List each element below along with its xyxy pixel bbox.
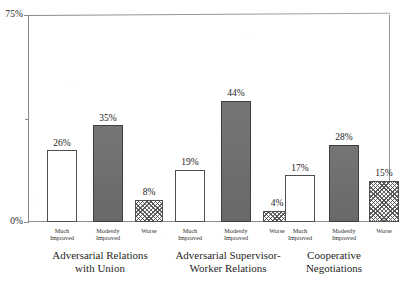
category-label-line: Worse	[376, 227, 392, 234]
bar-slot: 44%	[221, 15, 251, 222]
category-label-much-improved: MuchImproved	[50, 227, 74, 242]
category-label-much-improved: MuchImproved	[288, 227, 312, 242]
group-title-line: Worker Relations	[175, 262, 280, 275]
bar-slot: 28%	[329, 15, 359, 222]
bar-value-label: 26%	[53, 139, 70, 149]
plot-area: 0%75% 26%35%8%19%44%4%17%28%15%	[28, 15, 390, 222]
category-label-line: Improved	[178, 234, 202, 241]
bar-value-label: 15%	[375, 169, 392, 179]
category-labels-layer: MuchImprovedModestlyImprovedWorseAdversa…	[28, 222, 390, 285]
category-label-line: Improved	[224, 234, 248, 241]
bar-value-label: 28%	[335, 133, 352, 143]
bar-value-label: 19%	[181, 158, 198, 168]
bar-open	[47, 150, 77, 222]
group-label-block: MuchImprovedModestlyImprovedWorseCoopera…	[271, 222, 397, 285]
bar-open	[285, 175, 315, 222]
y-tick-label: 0%	[10, 217, 23, 227]
group-title: Adversarial Supervisor-Worker Relations	[175, 249, 280, 275]
category-label-line: Improved	[50, 234, 74, 241]
category-label-line: Much	[50, 227, 74, 234]
category-label-line: Modestly	[332, 227, 356, 234]
category-label-line: Modestly	[224, 227, 248, 234]
group-title: Adversarial Relationswith Union	[52, 249, 148, 275]
bar-solid	[329, 145, 359, 222]
bar-groups: 26%35%8%19%44%4%17%28%15%	[28, 15, 390, 222]
category-label-much-improved: MuchImproved	[178, 227, 202, 242]
group-title-line: Cooperative	[306, 249, 362, 262]
bar-slot: 35%	[93, 15, 123, 222]
bar-value-label: 44%	[227, 89, 244, 99]
bar-chart: 0%75% 26%35%8%19%44%4%17%28%15% MuchImpr…	[0, 0, 401, 285]
bar-solid	[221, 101, 251, 222]
group-title: CooperativeNegotiations	[306, 249, 362, 275]
bar-group: 26%35%8%	[37, 15, 163, 222]
category-label-modestly-improved: ModestlyImproved	[96, 227, 120, 242]
category-label-line: Worse	[141, 227, 157, 234]
category-label-modestly-improved: ModestlyImproved	[332, 227, 356, 242]
group-title-line: with Union	[52, 262, 148, 275]
bar-value-label: 35%	[99, 114, 116, 124]
category-label-worse: Worse	[141, 227, 157, 234]
group-title-line: Adversarial Supervisor-	[175, 249, 280, 262]
category-label-line: Improved	[288, 234, 312, 241]
bar-value-label: 8%	[143, 188, 156, 198]
bar-group: 17%28%15%	[271, 15, 397, 222]
bar-slot: 26%	[47, 15, 77, 222]
bar-slot: 15%	[369, 15, 399, 222]
category-label-modestly-improved: ModestlyImproved	[224, 227, 248, 242]
bar-solid	[93, 125, 123, 222]
bar-hatch	[135, 200, 163, 222]
category-label-worse: Worse	[376, 227, 392, 234]
category-label-line: Much	[178, 227, 202, 234]
group-label-block: MuchImprovedModestlyImprovedWorseAdversa…	[37, 222, 163, 285]
bar-value-label: 17%	[291, 164, 308, 174]
category-label-line: Modestly	[96, 227, 120, 234]
bar-hatch	[369, 181, 399, 222]
bar-open	[175, 170, 205, 222]
bar-slot: 17%	[285, 15, 315, 222]
category-label-line: Improved	[332, 234, 356, 241]
category-label-line: Much	[288, 227, 312, 234]
group-title-line: Adversarial Relations	[52, 249, 148, 262]
group-title-line: Negotiations	[306, 262, 362, 275]
bar-slot: 19%	[175, 15, 205, 222]
category-label-line: Improved	[96, 234, 120, 241]
y-tick-label: 75%	[5, 10, 23, 20]
bar-slot: 8%	[135, 15, 163, 222]
